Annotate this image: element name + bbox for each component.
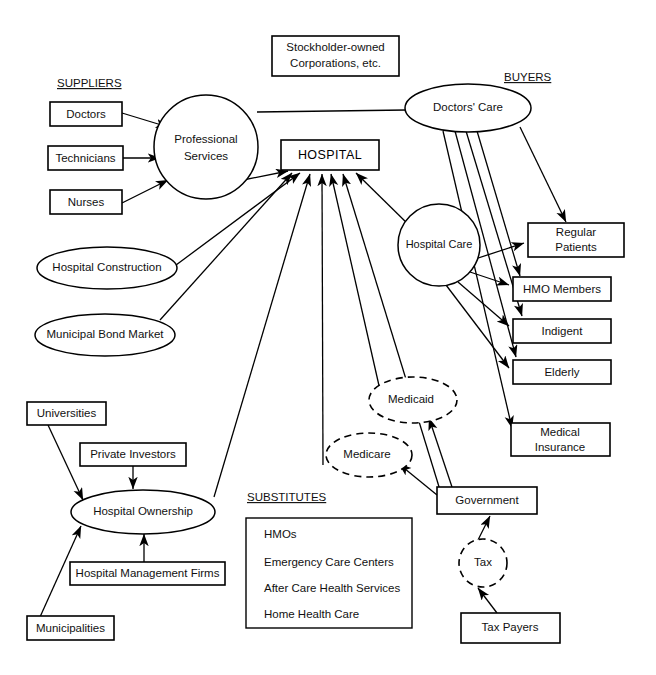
node-indigent-label: Indigent: [542, 325, 584, 337]
node-municipalities-label: Municipalities: [36, 622, 105, 634]
node-hospital-management-firms-label: Hospital Management Firms: [76, 567, 220, 579]
node-universities-label: Universities: [37, 407, 97, 419]
node-stockholder-owned-corporations[interactable]: Stockholder-owned Corporations, etc.: [272, 36, 399, 76]
node-tax-payers[interactable]: Tax Payers: [461, 613, 560, 643]
node-stockholder-label-line2: Corporations, etc.: [290, 57, 381, 69]
node-regular-patients[interactable]: Regular Patients: [528, 223, 624, 257]
industry-structure-diagram: SUPPLIERS BUYERS SUBSTITUTES: [0, 0, 656, 675]
node-nurses-label: Nurses: [68, 196, 105, 208]
node-professional-services-label-line1: Professional: [174, 133, 237, 145]
node-hospital-construction-label: Hospital Construction: [52, 261, 161, 273]
node-municipalities[interactable]: Municipalities: [27, 616, 114, 640]
node-private-investors-label: Private Investors: [90, 448, 176, 460]
node-hospital-ownership[interactable]: Hospital Ownership: [71, 490, 215, 534]
section-label-suppliers: SUPPLIERS: [57, 77, 122, 89]
section-label-buyers: BUYERS: [504, 71, 552, 83]
substitutes-item-1: Emergency Care Centers: [264, 556, 394, 568]
node-hospital-care[interactable]: Hospital Care: [398, 204, 480, 286]
node-indigent[interactable]: Indigent: [513, 319, 611, 343]
node-hospital-management-firms[interactable]: Hospital Management Firms: [70, 562, 225, 585]
node-medical-insurance-label-line2: Insurance: [535, 441, 586, 453]
node-technicians[interactable]: Technicians: [48, 146, 123, 170]
node-hospital-ownership-label: Hospital Ownership: [93, 505, 193, 517]
substitutes-item-0: HMOs: [264, 528, 297, 540]
node-medical-insurance[interactable]: Medical Insurance: [511, 423, 610, 456]
node-universities[interactable]: Universities: [27, 402, 106, 425]
node-tax[interactable]: Tax: [459, 539, 507, 587]
node-municipal-bond-market[interactable]: Municipal Bond Market: [35, 314, 175, 356]
node-stockholder-label-line1: Stockholder-owned: [286, 41, 384, 53]
node-hospital[interactable]: HOSPITAL: [281, 140, 379, 170]
node-hmo-members[interactable]: HMO Members: [513, 277, 611, 301]
node-medicaid[interactable]: Medicaid: [369, 377, 457, 423]
node-hmo-members-label: HMO Members: [523, 283, 601, 295]
node-regular-patients-label-line2: Patients: [555, 241, 597, 253]
substitutes-panel: HMOs Emergency Care Centers After Care H…: [246, 518, 412, 628]
node-doctors-label: Doctors: [66, 108, 106, 120]
node-technicians-label: Technicians: [55, 152, 115, 164]
node-medicare[interactable]: Medicare: [326, 433, 412, 477]
node-nurses[interactable]: Nurses: [50, 190, 122, 214]
node-professional-services[interactable]: Professional Services: [154, 95, 258, 199]
node-municipal-bond-market-label: Municipal Bond Market: [47, 328, 165, 340]
node-government-label: Government: [455, 494, 519, 506]
substitutes-item-3: Home Health Care: [264, 608, 359, 620]
node-doctors[interactable]: Doctors: [50, 102, 122, 126]
node-hospital-care-label: Hospital Care: [406, 238, 473, 250]
node-elderly-label: Elderly: [544, 366, 579, 378]
node-medicare-label: Medicare: [343, 448, 390, 460]
node-doctors-care-label: Doctors' Care: [433, 101, 503, 113]
substitutes-item-2: After Care Health Services: [264, 582, 400, 594]
node-hospital-label: HOSPITAL: [298, 148, 362, 162]
node-elderly[interactable]: Elderly: [513, 360, 611, 384]
node-hospital-construction[interactable]: Hospital Construction: [37, 247, 177, 289]
node-private-investors[interactable]: Private Investors: [80, 443, 186, 466]
section-label-substitutes: SUBSTITUTES: [247, 491, 327, 503]
node-doctors-care[interactable]: Doctors' Care: [405, 84, 531, 132]
node-professional-services-label-line2: Services: [184, 150, 228, 162]
node-regular-patients-label-line1: Regular: [556, 226, 596, 238]
node-medical-insurance-label-line1: Medical: [540, 426, 580, 438]
node-medicaid-label: Medicaid: [388, 393, 434, 405]
node-government[interactable]: Government: [437, 487, 537, 514]
node-tax-label: Tax: [474, 556, 492, 568]
node-tax-payers-label: Tax Payers: [482, 621, 539, 633]
